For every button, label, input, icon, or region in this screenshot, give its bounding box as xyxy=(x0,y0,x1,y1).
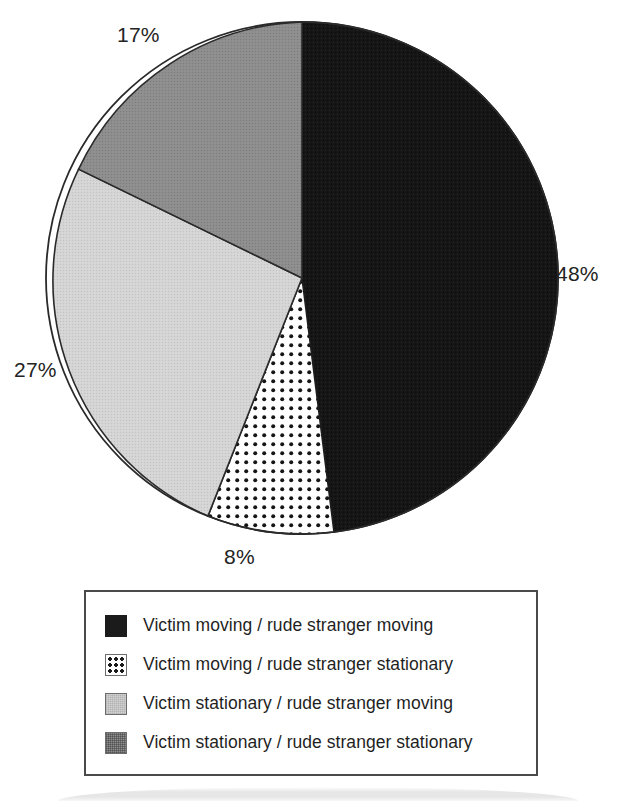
legend-item-label: Victim moving / rude stranger moving xyxy=(143,615,433,636)
legend-item-victim-moving-rude-stranger-moving: Victim moving / rude stranger moving xyxy=(86,606,536,645)
legend-item-label: Victim moving / rude stranger stationary xyxy=(143,654,453,675)
pie-value-label-27: 27% xyxy=(14,358,57,382)
legend-item-victim-stationary-rude-stranger-moving: Victim stationary / rude stranger moving xyxy=(86,684,536,723)
legend-item-victim-moving-rude-stranger-stationary: Victim moving / rude stranger stationary xyxy=(86,645,536,684)
pie-slice-victim-moving-rude-stranger-moving xyxy=(302,22,558,532)
legend-item-victim-stationary-rude-stranger-stationary: Victim stationary / rude stranger statio… xyxy=(86,723,536,762)
page-scan-artifact xyxy=(58,787,578,801)
legend-item-label: Victim stationary / rude stranger moving xyxy=(143,693,453,714)
pie-chart-svg xyxy=(0,0,630,560)
pie-chart-figure: 48% 8% 27% 17% Victim moving / rude stra… xyxy=(0,0,630,801)
pie-value-label-8: 8% xyxy=(224,545,255,569)
legend-box: Victim moving / rude stranger moving Vic… xyxy=(84,590,538,776)
solid-black-swatch-icon xyxy=(105,615,127,637)
light-gray-swatch-icon xyxy=(105,693,127,715)
dotted-white-swatch-icon xyxy=(105,654,127,676)
pie-value-label-48: 48% xyxy=(556,262,599,286)
pie-chart-area: 48% 8% 27% 17% xyxy=(0,0,630,560)
legend-item-label: Victim stationary / rude stranger statio… xyxy=(143,732,473,753)
medium-gray-swatch-icon xyxy=(105,732,127,754)
pie-value-label-17: 17% xyxy=(117,23,160,47)
